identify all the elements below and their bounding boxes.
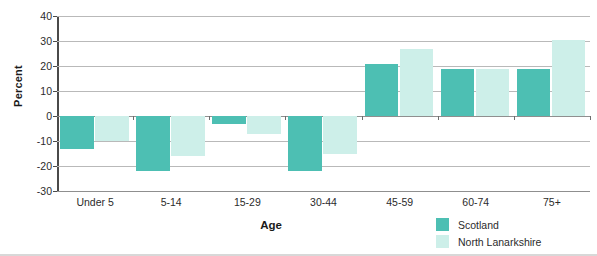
legend-swatch-icon	[436, 235, 449, 248]
bar-group	[285, 16, 361, 191]
bar-group	[362, 16, 438, 191]
plot-area: 403020100-10-20-30	[57, 16, 590, 191]
bar	[247, 116, 281, 134]
y-tick-label: 20	[9, 60, 57, 72]
x-tick-mark	[590, 116, 591, 120]
bar	[212, 116, 246, 124]
bar	[136, 116, 170, 171]
bar-group	[209, 16, 285, 191]
bar-chart: Percent 403020100-10-20-30 Age ScotlandN…	[0, 0, 597, 256]
x-tick-label: 45-59	[386, 196, 413, 208]
bar-group	[57, 16, 133, 191]
bar	[95, 116, 129, 141]
bar	[365, 64, 399, 117]
y-tick-label: 0	[9, 110, 57, 122]
x-tick-label: 30-44	[310, 196, 337, 208]
x-tick-label: Under 5	[76, 196, 113, 208]
bar	[517, 69, 551, 117]
x-tick-label: 5-14	[161, 196, 182, 208]
y-tick-label: -20	[9, 160, 57, 172]
y-tick-mark	[53, 191, 57, 192]
chart-legend: ScotlandNorth Lanarkshire	[436, 216, 541, 250]
y-tick-label: 30	[9, 35, 57, 47]
legend-label: North Lanarkshire	[458, 236, 541, 248]
bar	[476, 69, 510, 117]
legend-item: North Lanarkshire	[436, 233, 541, 250]
bar	[441, 69, 475, 117]
legend-item: Scotland	[436, 216, 541, 233]
bar	[400, 49, 434, 117]
bar	[288, 116, 322, 171]
x-axis-title-text: Age	[260, 219, 282, 231]
bar	[60, 116, 94, 149]
bar	[171, 116, 205, 156]
bar-group	[514, 16, 590, 191]
bar-group	[438, 16, 514, 191]
bar-group	[133, 16, 209, 191]
bar	[323, 116, 357, 154]
legend-swatch-icon	[436, 218, 449, 231]
legend-label: Scotland	[458, 219, 499, 231]
y-tick-label: -30	[9, 185, 57, 197]
x-tick-label: 15-29	[234, 196, 261, 208]
y-tick-label: 10	[9, 85, 57, 97]
y-tick-label: 40	[9, 10, 57, 22]
bar	[552, 40, 586, 116]
x-tick-label: 60-74	[462, 196, 489, 208]
x-tick-label: 75+	[543, 196, 561, 208]
y-tick-label: -10	[9, 135, 57, 147]
gridline--30	[57, 191, 590, 192]
